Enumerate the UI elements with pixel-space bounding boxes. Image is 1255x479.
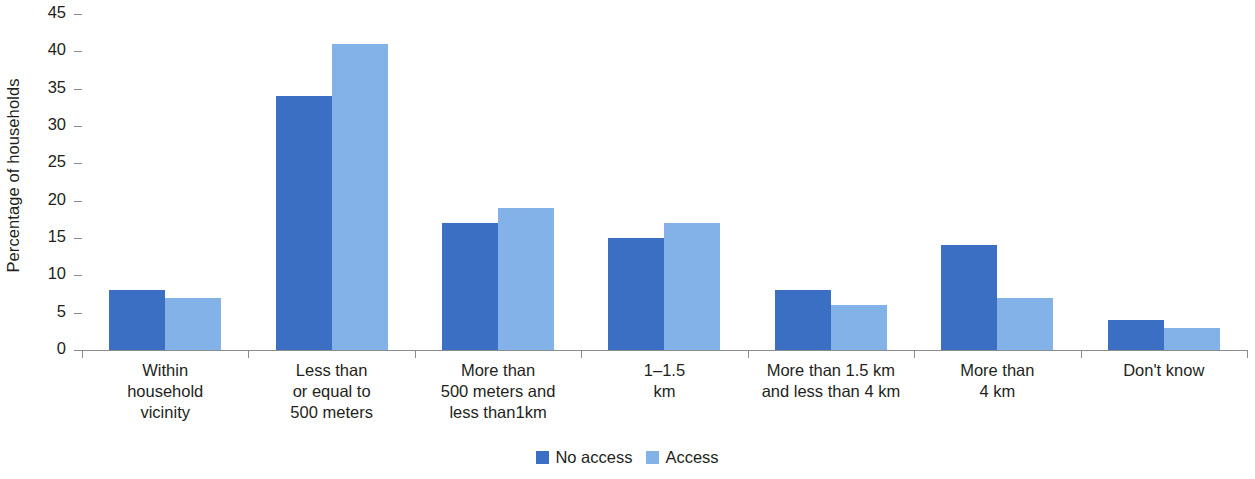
x-axis-tick-mark: [1247, 350, 1248, 358]
square-swatch-icon: [536, 451, 549, 464]
x-axis-tick-label: More than4 km: [914, 360, 1080, 440]
bar-no-access[interactable]: [442, 223, 498, 350]
y-axis-tick-mark: [74, 163, 82, 164]
y-axis-tick-mark: [74, 275, 82, 276]
bar-access[interactable]: [332, 44, 388, 350]
y-axis-tick-mark: [74, 51, 82, 52]
x-axis-tick-mark: [415, 350, 416, 358]
x-axis-tick-mark: [581, 350, 582, 358]
y-axis-tick-label: 0: [57, 339, 66, 358]
y-axis-tick-label: 35: [48, 78, 66, 97]
legend-item-label: No access: [555, 448, 632, 467]
legend-item[interactable]: Access: [646, 448, 718, 467]
y-axis-tick-label: 20: [48, 190, 66, 209]
x-axis-tick-label: More than500 meters andless than1km: [415, 360, 581, 440]
bar-access[interactable]: [498, 208, 554, 350]
bar-group: [914, 14, 1080, 350]
x-axis-tick-label: Withinhouseholdvicinity: [82, 360, 248, 440]
x-axis-tick-mark: [914, 350, 915, 358]
x-axis-tick-mark: [1081, 350, 1082, 358]
bar-access[interactable]: [997, 298, 1053, 350]
y-axis-tick-mark: [74, 89, 82, 90]
bar-group: [1081, 14, 1247, 350]
y-axis-tick-mark: [74, 126, 82, 127]
y-axis-title-text: Percentage of households: [4, 78, 23, 272]
bar-group: [82, 14, 248, 350]
y-axis-tick-label: 25: [48, 152, 66, 171]
legend-item[interactable]: No access: [536, 448, 632, 467]
bar-chart: Percentage of households 051015202530354…: [0, 0, 1255, 479]
bar-access[interactable]: [831, 305, 887, 350]
y-axis-title: Percentage of households: [0, 0, 26, 350]
chart-legend: No accessAccess: [0, 448, 1255, 467]
bar-group: [748, 14, 914, 350]
legend-item-label: Access: [665, 448, 718, 467]
x-axis-tick-label: More than 1.5 kmand less than 4 km: [748, 360, 914, 440]
bar-group: [581, 14, 747, 350]
y-axis-tick-mark: [74, 14, 82, 15]
x-axis-tick-mark: [748, 350, 749, 358]
bar-no-access[interactable]: [608, 238, 664, 350]
y-axis-tick-label: 30: [48, 115, 66, 134]
y-axis-tick-label: 40: [48, 40, 66, 59]
y-axis-tick-label: 10: [48, 264, 66, 283]
bar-group: [415, 14, 581, 350]
y-axis-tick-label: 5: [57, 302, 66, 321]
x-axis-labels: WithinhouseholdvicinityLess thanor equal…: [82, 360, 1247, 440]
bar-no-access[interactable]: [109, 290, 165, 350]
y-axis-tick-mark: [74, 201, 82, 202]
square-swatch-icon: [646, 451, 659, 464]
bar-no-access[interactable]: [941, 245, 997, 350]
y-axis-tick-label: 15: [48, 227, 66, 246]
bar-access[interactable]: [1164, 328, 1220, 350]
bar-no-access[interactable]: [775, 290, 831, 350]
x-axis-line: [82, 350, 1247, 351]
x-axis-tick-label: Less thanor equal to500 meters: [248, 360, 414, 440]
x-axis-tick-mark: [82, 350, 83, 358]
bar-access[interactable]: [664, 223, 720, 350]
x-axis-tick-mark: [248, 350, 249, 358]
y-axis-tick-mark: [74, 238, 82, 239]
y-axis-tick-label: 45: [48, 3, 66, 22]
plot-area: [82, 14, 1247, 350]
bar-group: [248, 14, 414, 350]
bar-access[interactable]: [165, 298, 221, 350]
x-axis-tick-label: Don't know: [1081, 360, 1247, 440]
y-axis-tick-mark: [74, 313, 82, 314]
x-axis-tick-label: 1–1.5km: [581, 360, 747, 440]
y-axis-tick-mark: [74, 350, 82, 351]
bar-no-access[interactable]: [1108, 320, 1164, 350]
bar-no-access[interactable]: [276, 96, 332, 350]
